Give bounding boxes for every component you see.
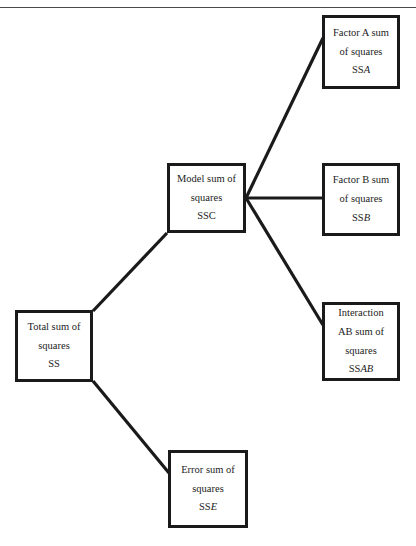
node-model-symbol: SSC [197,207,216,226]
node-error-line-1: Error sum of [181,461,235,480]
node-total-sum-of-squares[interactable]: Total sum of squares SS [15,310,93,382]
node-factor-b-sum-of-squares[interactable]: Factor B sum of squares SSB [322,163,400,236]
diagram-page: Factor A sum of squares SSA Factor B sum… [0,0,416,546]
node-factor-b-symbol-subscript: B [364,212,370,223]
node-model-symbol-prefix: SS [197,210,209,221]
edge-total-to-error [93,381,169,473]
node-total-symbol: SS [48,355,60,374]
node-total-symbol-prefix: SS [48,358,60,369]
node-interaction-symbol-subscript: AB [360,363,373,374]
node-interaction-ab-sum-of-squares[interactable]: Interaction AB sum of squares SSAB [322,302,400,381]
node-error-symbol: SSE [199,498,217,517]
node-factor-a-symbol-prefix: SS [352,64,364,75]
node-factor-a-line-2: of squares [340,43,383,62]
node-factor-a-symbol: SSA [352,61,370,80]
node-model-line-2: squares [191,189,223,208]
node-factor-a-sum-of-squares[interactable]: Factor A sum of squares SSA [322,15,400,89]
node-interaction-symbol-prefix: SS [349,363,361,374]
node-model-symbol-subscript: C [209,210,216,221]
edge-total-to-model [93,233,167,311]
node-factor-b-symbol-prefix: SS [352,212,364,223]
node-error-sum-of-squares[interactable]: Error sum of squares SSE [168,450,248,528]
node-factor-a-line-1: Factor A sum [333,24,389,43]
node-interaction-line-2: AB sum of [338,323,384,342]
node-error-symbol-subscript: E [211,501,217,512]
node-interaction-line-3: squares [345,342,377,361]
node-model-sum-of-squares[interactable]: Model sum of squares SSC [167,163,246,233]
node-interaction-line-1: Interaction [338,304,383,323]
node-factor-a-symbol-subscript: A [364,64,370,75]
node-factor-b-symbol: SSB [352,209,370,228]
node-factor-b-line-1: Factor B sum [333,171,390,190]
node-error-line-2: squares [192,480,224,499]
node-model-line-1: Model sum of [177,170,236,189]
edge-model-to-factor-a [246,38,323,198]
node-total-line-2: squares [38,337,70,356]
node-factor-b-line-2: of squares [340,190,383,209]
node-error-symbol-prefix: SS [199,501,211,512]
edge-model-to-interaction [246,198,323,325]
node-interaction-symbol: SSAB [349,360,374,379]
node-total-line-1: Total sum of [28,318,81,337]
